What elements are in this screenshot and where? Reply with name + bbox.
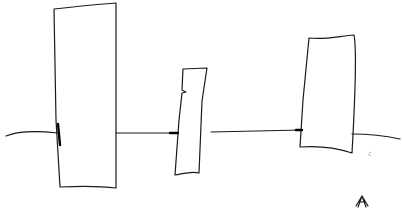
block-rectangle-1 bbox=[54, 3, 116, 188]
block-rectangle-3 bbox=[300, 35, 355, 153]
corner-figure-icon bbox=[356, 196, 368, 207]
smudge-mark bbox=[368, 152, 371, 156]
junction-mark-1 bbox=[58, 124, 60, 145]
connector-line bbox=[6, 130, 400, 139]
sketch-canvas bbox=[0, 0, 402, 210]
block-rectangle-2 bbox=[175, 68, 207, 175]
